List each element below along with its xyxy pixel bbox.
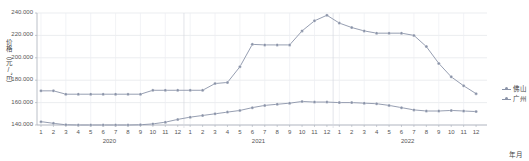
legend-label: 佛山 — [513, 84, 527, 94]
legend-swatch-icon — [502, 89, 511, 90]
legend: 佛山广州 — [502, 84, 527, 104]
plot-area — [0, 0, 529, 161]
line-chart: 价格（元/㎡） 年月 140.000160.000180.000200.0002… — [0, 0, 529, 161]
legend-item[interactable]: 佛山 — [502, 84, 527, 94]
legend-swatch-icon — [502, 99, 511, 100]
legend-label: 广州 — [513, 94, 527, 104]
legend-item[interactable]: 广州 — [502, 94, 527, 104]
